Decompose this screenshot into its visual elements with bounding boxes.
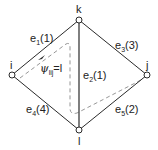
edge-label-e2: e2(1) [83, 70, 106, 81]
node-label-l: l [78, 136, 80, 147]
edge-label-e5: e5(2) [115, 104, 138, 115]
node-i [9, 72, 15, 78]
edge-label-e1: e1(1) [30, 33, 53, 44]
node-label-i: i [10, 60, 12, 71]
arrow-icon [38, 55, 45, 60]
node-j [144, 72, 150, 78]
graph-diagram [0, 0, 158, 150]
node-label-j: j [146, 60, 148, 71]
edge-label-e4: e4(4) [26, 104, 49, 115]
node-label-k: k [76, 4, 82, 15]
node-l [76, 127, 82, 133]
edge-label-e3: e3(3) [115, 40, 138, 51]
path-label-psi: ψlij=l [40, 63, 62, 74]
node-k [76, 17, 82, 23]
